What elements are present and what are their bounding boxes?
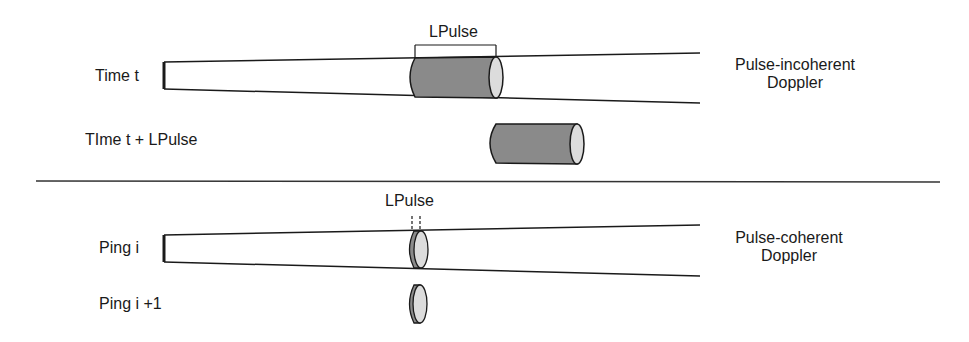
label-lpulse-top: LPulse xyxy=(429,23,478,41)
doppler-diagram: Time t TIme t + LPulse LPulse Pulse-inco… xyxy=(0,0,969,342)
beam-cone-bottom xyxy=(164,225,700,276)
label-pulse-coherent: Pulse-coherent Doppler xyxy=(714,229,864,265)
pulse-disc-ping-i-plus-1 xyxy=(410,285,428,323)
label-time-t-plus-lpulse: TIme t + LPulse xyxy=(85,131,198,149)
pulse-cylinder-time-t-plus-lpulse xyxy=(490,124,584,164)
lpulse-markers-bottom xyxy=(412,216,420,230)
pulse-cylinder-time-t xyxy=(410,57,503,98)
pulse-disc-ping-i xyxy=(410,231,429,268)
panel-divider xyxy=(36,181,940,182)
mode-title-line2: Doppler xyxy=(714,74,876,92)
label-time-t: Time t xyxy=(95,67,139,85)
label-ping-i: Ping i xyxy=(99,239,139,257)
label-pulse-incoherent: Pulse-incoherent Doppler xyxy=(714,56,876,92)
label-lpulse-bottom: LPulse xyxy=(385,192,434,210)
diagram-graphics xyxy=(0,0,969,342)
label-ping-i-plus-1: Ping i +1 xyxy=(99,295,162,313)
mode-title-line1: Pulse-coherent xyxy=(714,229,864,247)
mode-title-line1: Pulse-incoherent xyxy=(714,56,876,74)
mode-title-line2: Doppler xyxy=(714,247,864,265)
